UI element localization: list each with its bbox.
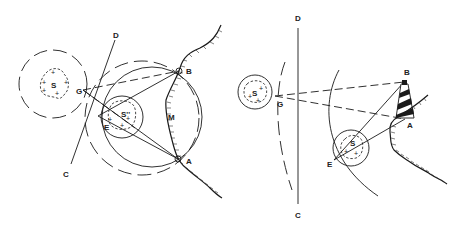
shoal-mark: + (354, 150, 358, 157)
label-e: E (104, 123, 110, 132)
danger-arc-dashed (278, 62, 292, 190)
label-m: M (168, 113, 175, 122)
bearing-e-b (98, 71, 179, 116)
shoal-mark: + (256, 97, 260, 104)
label-b: B (186, 67, 192, 76)
coastline-hatching (167, 30, 222, 193)
label-b-right: B (404, 68, 410, 77)
shoal-mark: + (248, 93, 252, 100)
label-a-right: A (407, 121, 413, 130)
label-g-right: G (277, 100, 283, 109)
label-s2-right: S (350, 139, 356, 148)
shoal-mark: + (42, 87, 46, 94)
label-c: C (63, 170, 69, 179)
shoal-mark: + (55, 90, 59, 97)
coastline (166, 25, 222, 198)
shoal-mark: + (259, 85, 263, 92)
shoal-s2-circle-right (333, 130, 369, 166)
label-g: G (76, 87, 82, 96)
shoal-mark: + (344, 148, 348, 155)
label-e-right: E (327, 160, 333, 169)
right-panel: S + + + D C G E S + + B (238, 14, 447, 220)
label-a: A (186, 157, 192, 166)
label-s: S (51, 81, 57, 90)
label-c-right: C (295, 211, 301, 220)
dashed-bearing-g-a-right (275, 96, 405, 119)
horizontal-angle-circle (102, 67, 202, 167)
label-d: D (113, 31, 119, 40)
diagram-canvas: + + + + + S S'' + + + D C G E B (0, 0, 458, 228)
line-cd (71, 40, 115, 164)
shoal-mark: + (64, 79, 68, 86)
label-d-right: D (295, 14, 301, 23)
shoal-mark: + (126, 115, 130, 122)
dashed-bearing-g-b-right (275, 82, 404, 96)
left-panel: + + + + + S S'' + + + D C G E B (19, 25, 222, 198)
shoal-mark: + (42, 79, 46, 86)
bearing-e-a (98, 116, 178, 159)
shoal-mark: + (51, 69, 55, 76)
dashed-bearing-g-b (83, 71, 179, 90)
